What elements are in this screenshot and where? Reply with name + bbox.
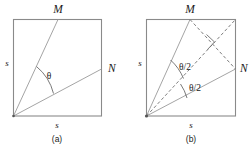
panel-a-vertex [12, 115, 15, 118]
panel-a-label-side-bottom: s [55, 120, 59, 130]
figure-root: M N s s θ (a) M N s [0, 0, 251, 147]
panel-b-label-n: N [239, 62, 249, 74]
panel-a-ray-to-n [14, 69, 102, 116]
panel-b-label-theta-half-lower: θ/2 [189, 83, 201, 93]
panel-a-label-m: M [52, 3, 64, 15]
panel-b-label-m: M [184, 3, 196, 15]
panel-b-label-side-bottom: s [189, 120, 193, 130]
panel-b-label-theta-half-upper: θ/2 [179, 62, 191, 72]
panel-b-dashed-bisector [147, 20, 236, 117]
geometry-figure: M N s s θ (a) M N s [0, 0, 251, 147]
panel-a-square [14, 20, 102, 117]
panel-b-group: M N s s θ/2 θ/2 (b) [138, 3, 249, 144]
panel-a-ray-to-m [14, 20, 59, 117]
panel-b-caption: (b) [186, 134, 197, 144]
panel-a-label-side-left: s [5, 58, 9, 68]
panel-a-caption: (a) [52, 134, 63, 144]
panel-a-label-theta: θ [47, 71, 52, 81]
panel-b-label-side-left: s [138, 58, 142, 68]
panel-a-label-n: N [107, 62, 117, 74]
panel-b-vertex [145, 114, 148, 117]
panel-a-group: M N s s θ (a) [5, 3, 117, 144]
